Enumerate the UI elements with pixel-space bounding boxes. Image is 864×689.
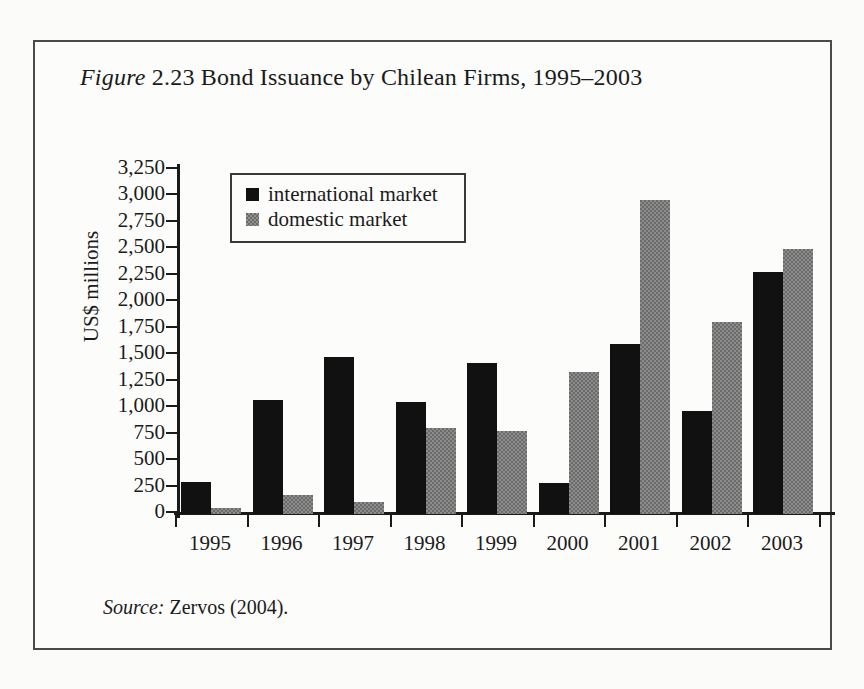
x-axis-label-2002: 2002: [671, 531, 751, 556]
bar-domestic-2000: [569, 372, 599, 514]
x-axis-tick: [604, 514, 606, 527]
y-axis-tick-label: 2,750: [87, 210, 165, 231]
bar-domestic-1998: [426, 428, 456, 514]
bar-international-1999: [467, 363, 497, 514]
y-axis-tick-labels: 02505007501,0001,2501,5001,7502,0002,250…: [75, 42, 165, 652]
y-axis-tick-label: 2,500: [87, 236, 165, 257]
bar-domestic-2002: [712, 322, 742, 514]
bar-international-1998: [396, 402, 426, 514]
legend-swatch-domestic-icon: [246, 213, 259, 226]
bar-domestic-1999: [497, 431, 527, 514]
x-axis-label-2003: 2003: [742, 531, 822, 556]
legend-item-international: international market: [246, 182, 438, 207]
x-axis-label-1999: 1999: [456, 531, 536, 556]
y-axis-tick-label: 2,250: [87, 263, 165, 284]
source-text: Zervos (2004).: [169, 596, 288, 618]
x-axis-tick: [819, 514, 821, 527]
x-axis-tick: [747, 514, 749, 527]
bar-international-2003: [753, 272, 783, 514]
x-axis-label-1995: 1995: [170, 531, 250, 556]
y-axis-tick-label: 3,000: [87, 183, 165, 204]
x-axis-tick: [676, 514, 678, 527]
bar-international-2001: [610, 344, 640, 514]
y-axis-tick-label: 500: [87, 448, 165, 469]
legend-swatch-international-icon: [246, 188, 259, 201]
y-axis-tick-label: 1,250: [87, 369, 165, 390]
source-note: Source: Zervos (2004).: [103, 596, 288, 619]
bar-domestic-2003: [783, 249, 813, 514]
x-axis-tick: [390, 514, 392, 527]
source-label: Source:: [103, 596, 164, 618]
legend-item-domestic: domestic market: [246, 207, 438, 232]
x-axis-tick: [461, 514, 463, 527]
x-axis-tick: [533, 514, 535, 527]
x-axis-label-1997: 1997: [313, 531, 393, 556]
y-axis-tick-label: 2,000: [87, 289, 165, 310]
x-axis-label-2000: 2000: [528, 531, 608, 556]
bar-international-1996: [253, 400, 283, 514]
x-axis-label-2001: 2001: [599, 531, 679, 556]
bar-international-2002: [682, 411, 712, 514]
y-axis-tick-label: 0: [87, 501, 165, 522]
y-axis-tick-label: 3,250: [87, 157, 165, 178]
y-axis-tick-label: 1,750: [87, 316, 165, 337]
bar-domestic-1996: [283, 495, 313, 514]
figure-frame: Figure 2.23 Bond Issuance by Chilean Fir…: [33, 40, 832, 650]
y-axis-tick-label: 750: [87, 422, 165, 443]
figure-title-text: Bond Issuance by Chilean Firms, 1995–200…: [201, 64, 643, 90]
bar-domestic-1995: [211, 508, 241, 514]
x-axis-tick: [247, 514, 249, 527]
bar-international-1995: [181, 482, 211, 514]
y-axis-tick-label: 250: [87, 475, 165, 496]
x-axis-label-1998: 1998: [385, 531, 465, 556]
bar-international-2000: [539, 483, 569, 514]
chart-legend: international market domestic market: [230, 173, 466, 243]
x-axis-label-1996: 1996: [242, 531, 322, 556]
legend-label-domestic: domestic market: [268, 207, 407, 232]
bar-domestic-2001: [640, 200, 670, 514]
x-axis-tick: [318, 514, 320, 527]
legend-label-international: international market: [268, 182, 438, 207]
bar-domestic-1997: [354, 502, 384, 514]
x-axis-tick: [175, 514, 177, 527]
y-axis-tick-label: 1,500: [87, 342, 165, 363]
bar-international-1997: [324, 357, 354, 514]
y-axis-tick-label: 1,000: [87, 395, 165, 416]
